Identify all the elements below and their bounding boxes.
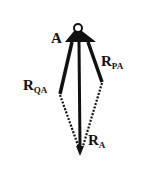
label-rpa: RPA	[101, 53, 124, 71]
dotted-line-left	[60, 95, 79, 148]
label-ra: RA	[88, 132, 106, 150]
bracket-triangle	[65, 31, 96, 42]
point-label-a: A	[51, 30, 62, 46]
force-diagram: A RQA RPA RA	[0, 0, 156, 169]
vector-rpa-line	[88, 42, 102, 82]
label-rqa: RQA	[23, 77, 48, 95]
vector-ra-arrowhead-icon	[76, 146, 84, 156]
vector-rqa-line	[60, 42, 72, 94]
vector-ra-line	[79, 42, 80, 148]
pivot-ring-icon	[74, 24, 82, 32]
